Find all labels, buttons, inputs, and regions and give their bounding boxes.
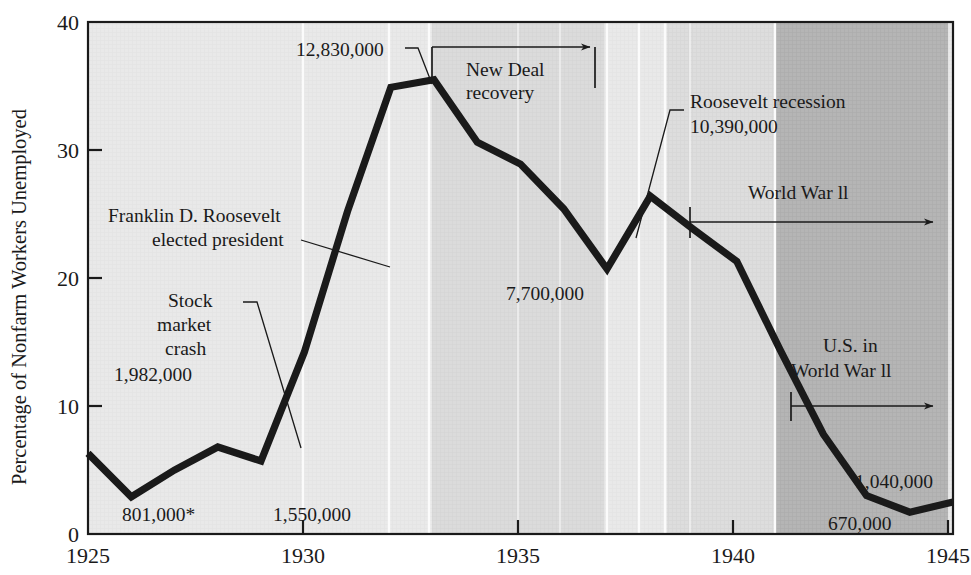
stock-crash-value-label: 1,982,000 — [114, 364, 192, 385]
roosevelt-elected-line2: elected president — [152, 229, 284, 250]
y-tick-label-10: 10 — [57, 394, 79, 419]
world-war-two-label: World War ll — [748, 182, 849, 203]
unemployment-chart-figure: New Deal recovery 12,830,000 Franklin D.… — [0, 0, 971, 575]
x-tick-label-1945: 1945 — [926, 543, 970, 568]
new-deal-label-line2: recovery — [466, 82, 534, 103]
x-tick-label-1940: 1940 — [711, 543, 755, 568]
y-tick-label-40: 40 — [57, 10, 79, 35]
chart-svg: New Deal recovery 12,830,000 Franklin D.… — [0, 0, 971, 575]
new-deal-label-line1: New Deal — [466, 59, 545, 80]
x-tick-label-1935: 1935 — [496, 543, 540, 568]
us-in-world-war-two-line1: U.S. in — [823, 335, 878, 356]
y-tick-label-20: 20 — [57, 266, 79, 291]
stock-crash-line2: market — [157, 314, 212, 335]
value-label-801000: 801,000* — [122, 504, 195, 525]
y-axis-title: Percentage of Nonfarm Workers Unemployed — [8, 109, 31, 485]
roosevelt-recession-line1: Roosevelt recession — [690, 91, 846, 112]
value-label-7700000: 7,700,000 — [506, 283, 584, 304]
x-tick-label-1930: 1930 — [281, 543, 325, 568]
x-tick-label-1925: 1925 — [66, 543, 110, 568]
us-in-world-war-two-line2: World War ll — [791, 360, 892, 381]
value-label-1040000: 1,040,000 — [855, 471, 933, 492]
y-tick-label-30: 30 — [57, 138, 79, 163]
value-label-1550000: 1,550,000 — [273, 504, 351, 525]
value-label-670000: 670,000 — [828, 513, 891, 534]
stock-crash-line3: crash — [165, 338, 206, 359]
roosevelt-recession-value-label: 10,390,000 — [690, 116, 778, 137]
roosevelt-elected-line1: Franklin D. Roosevelt — [108, 205, 281, 226]
peak-value-label: 12,830,000 — [296, 39, 384, 60]
stock-crash-line1: Stock — [168, 290, 213, 311]
